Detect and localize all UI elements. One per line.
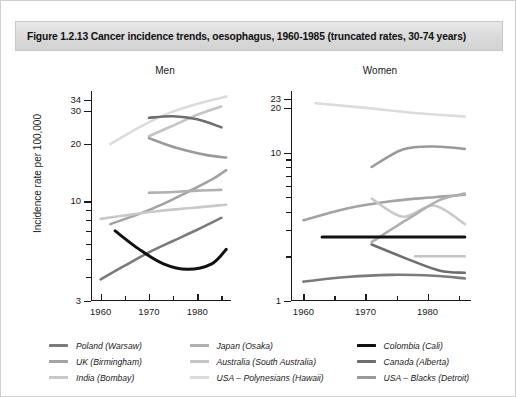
legend-swatch bbox=[357, 360, 376, 363]
x-tick-label: 1960 bbox=[81, 306, 121, 317]
page-title: Figure 1.2.13 Cancer incidence trends, o… bbox=[16, 31, 466, 42]
legend-label: USA – Blacks (Detroit) bbox=[384, 373, 470, 383]
plot-panel-men: 310203034 196019701980 bbox=[91, 91, 231, 301]
y-tick-minor bbox=[286, 212, 291, 213]
legend-label: UK (Birmingham) bbox=[76, 357, 142, 367]
series-line bbox=[149, 190, 221, 193]
legend-column-1: Poland (Warsaw)UK (Birmingham)India (Bom… bbox=[49, 339, 190, 384]
series-line bbox=[303, 275, 464, 282]
legend-swatch bbox=[357, 344, 376, 347]
y-tick-minor bbox=[286, 159, 291, 160]
chart-figure: Men Women Incidence rate per 100,000 310… bbox=[15, 53, 503, 385]
legend-swatch bbox=[49, 360, 68, 363]
y-tick-minor bbox=[286, 167, 291, 168]
y-tick-minor bbox=[86, 220, 91, 221]
legend-swatch bbox=[357, 376, 376, 379]
plot-panel-women: 1102023 196019701980 bbox=[291, 91, 471, 301]
legend-item: Australia (South Australia) bbox=[190, 355, 357, 368]
legend-item: Japan (Osaka) bbox=[190, 339, 357, 352]
x-tick-label: 1970 bbox=[129, 306, 169, 317]
x-tick-minor bbox=[173, 296, 174, 301]
y-tick-label: 10 bbox=[241, 147, 281, 158]
y-tick-major bbox=[84, 301, 91, 302]
legend-swatch bbox=[190, 360, 209, 363]
series-line bbox=[149, 116, 221, 127]
y-tick-label: 10 bbox=[41, 195, 81, 206]
x-tick-major bbox=[149, 294, 150, 301]
y-tick-label: 30 bbox=[41, 105, 81, 116]
series-line bbox=[372, 146, 465, 167]
y-tick-major bbox=[284, 108, 291, 109]
legend-swatch bbox=[190, 376, 209, 379]
legend-swatch bbox=[49, 344, 68, 347]
series-line bbox=[115, 231, 226, 269]
y-tick-major bbox=[84, 144, 91, 145]
series-line bbox=[372, 245, 465, 273]
y-tick-major bbox=[84, 201, 91, 202]
y-axis-label: Incidence rate per 100,000 bbox=[32, 94, 43, 254]
y-tick-label: 23 bbox=[241, 93, 281, 104]
series-lines-men bbox=[91, 91, 231, 301]
y-tick-label: 3 bbox=[41, 295, 81, 306]
chart-legend: Poland (Warsaw)UK (Birmingham)India (Bom… bbox=[49, 339, 499, 384]
x-tick-minor bbox=[334, 296, 335, 301]
legend-label: Canada (Alberta) bbox=[384, 357, 449, 367]
x-tick-major bbox=[303, 294, 304, 301]
y-tick-label: 1 bbox=[241, 295, 281, 306]
y-tick-label: 34 bbox=[41, 94, 81, 105]
y-tick-minor bbox=[286, 186, 291, 187]
legend-label: Colombia (Cali) bbox=[384, 341, 443, 351]
y-tick-major bbox=[284, 153, 291, 154]
y-tick-major bbox=[84, 111, 91, 112]
legend-label: Poland (Warsaw) bbox=[76, 341, 142, 351]
legend-item: Poland (Warsaw) bbox=[49, 339, 190, 352]
panel-title-men: Men bbox=[135, 65, 195, 76]
legend-swatch bbox=[49, 376, 68, 379]
figure-title-banner: Figure 1.2.13 Cancer incidence trends, o… bbox=[15, 21, 503, 51]
legend-item: India (Bombay) bbox=[49, 371, 190, 384]
x-tick-major bbox=[365, 294, 366, 301]
x-tick-label: 1960 bbox=[283, 306, 323, 317]
x-tick-major bbox=[197, 294, 198, 301]
legend-column-3: Colombia (Cali)Canada (Alberta)USA – Bla… bbox=[357, 339, 499, 384]
series-line bbox=[101, 205, 227, 219]
legend-label: India (Bombay) bbox=[76, 373, 134, 383]
y-tick-major bbox=[84, 100, 91, 101]
x-tick-minor bbox=[221, 296, 222, 301]
legend-label: USA – Polynesians (Hawaii) bbox=[217, 373, 324, 383]
legend-item: UK (Birmingham) bbox=[49, 355, 190, 368]
legend-column-2: Japan (Osaka)Australia (South Australia)… bbox=[190, 339, 357, 384]
y-tick-major bbox=[284, 99, 291, 100]
series-lines-women bbox=[291, 91, 471, 301]
y-tick-minor bbox=[86, 259, 91, 260]
series-line bbox=[110, 97, 226, 144]
legend-item: Canada (Alberta) bbox=[357, 355, 499, 368]
legend-label: Australia (South Australia) bbox=[217, 357, 317, 367]
x-tick-major bbox=[428, 294, 429, 301]
y-tick-minor bbox=[286, 256, 291, 257]
y-tick-minor bbox=[286, 197, 291, 198]
x-tick-label: 1980 bbox=[177, 306, 217, 317]
y-tick-minor bbox=[286, 176, 291, 177]
x-tick-minor bbox=[397, 296, 398, 301]
legend-item: Colombia (Cali) bbox=[357, 339, 499, 352]
series-line bbox=[316, 103, 465, 116]
y-tick-minor bbox=[86, 210, 91, 211]
legend-swatch bbox=[190, 344, 209, 347]
y-tick-minor bbox=[86, 277, 91, 278]
figure-page: Figure 1.2.13 Cancer incidence trends, o… bbox=[0, 0, 516, 397]
x-tick-minor bbox=[459, 296, 460, 301]
legend-item: USA – Polynesians (Hawaii) bbox=[190, 371, 357, 384]
series-line bbox=[149, 138, 226, 157]
legend-label: Japan (Osaka) bbox=[217, 341, 273, 351]
series-line bbox=[149, 107, 221, 137]
legend-item: USA – Blacks (Detroit) bbox=[357, 371, 499, 384]
x-tick-label: 1970 bbox=[345, 306, 385, 317]
x-tick-label: 1980 bbox=[408, 306, 448, 317]
x-tick-minor bbox=[125, 296, 126, 301]
y-tick-minor bbox=[86, 231, 91, 232]
series-line bbox=[101, 218, 222, 279]
y-tick-label: 20 bbox=[41, 138, 81, 149]
y-tick-minor bbox=[86, 244, 91, 245]
panel-title-women: Women bbox=[345, 65, 415, 76]
